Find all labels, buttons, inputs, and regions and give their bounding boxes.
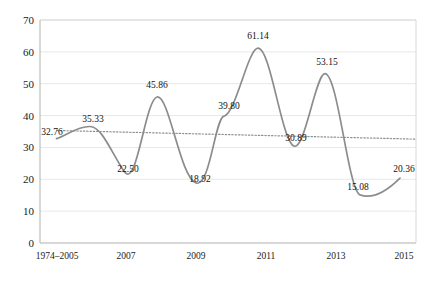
- x-tick-label: 2013: [327, 251, 346, 261]
- y-tick-label: 50: [23, 78, 35, 90]
- y-tick-label: 70: [23, 14, 35, 26]
- x-tick-label: 2011: [257, 251, 276, 261]
- data-label: 15.08: [347, 182, 369, 192]
- y-tick-label: 30: [23, 141, 35, 153]
- data-label: 45.86: [146, 80, 168, 90]
- y-tick-label: 0: [29, 237, 35, 249]
- data-label: 20.36: [393, 164, 415, 174]
- data-label: 22.50: [117, 164, 139, 174]
- data-label: 53.15: [316, 57, 338, 67]
- x-axis-tick-labels: 1974–2005 2007 2009 2011 2013 2015: [36, 251, 414, 261]
- data-label: 61.14: [247, 31, 269, 41]
- x-tick-label: 2007: [117, 251, 136, 261]
- x-tick-label: 2015: [395, 251, 414, 261]
- data-label: 39.80: [218, 101, 240, 111]
- data-label: 32.76: [41, 127, 63, 137]
- y-axis-tick-labels: 70 60 50 40 30 20 10 0: [23, 14, 35, 249]
- y-tick-label: 40: [23, 110, 35, 122]
- y-tick-label: 60: [23, 46, 35, 58]
- data-label: 18.92: [189, 174, 211, 184]
- data-label: 35.33: [82, 114, 104, 124]
- y-tick-label: 10: [23, 205, 35, 217]
- x-tick-label: 1974–2005: [36, 251, 79, 261]
- line-chart: 70 60 50 40 30 20 10 0 1974–2005 2007 20…: [0, 0, 442, 282]
- y-tick-label: 20: [23, 173, 35, 185]
- chart-container: 70 60 50 40 30 20 10 0 1974–2005 2007 20…: [0, 0, 442, 282]
- x-tick-label: 2009: [187, 251, 206, 261]
- data-label: 30.89: [285, 133, 307, 143]
